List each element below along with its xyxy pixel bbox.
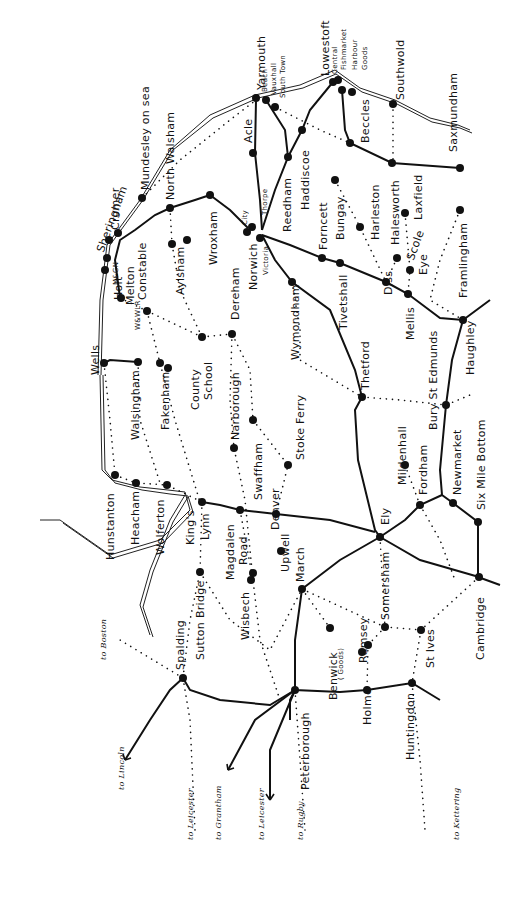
station-label-hunstanton: Hunstanton (105, 493, 116, 560)
station-label-bury-st-edmunds: Bury St Edmunds (428, 330, 439, 430)
station-label-eye: Eye (418, 254, 429, 275)
station-label-thorpe: Thorpe (262, 189, 269, 215)
station-label-huntingdon: Huntingdon (405, 693, 416, 760)
station-label-dereham: Dereham (230, 267, 241, 320)
destination-label: to Leicester (258, 788, 266, 840)
station-label-march: March (295, 547, 306, 582)
station-label-magdalen-road: Magdalen (225, 524, 236, 580)
station-label-somersham: Somersham (380, 551, 391, 620)
station-label-bungay: Bungay (335, 196, 346, 240)
destination-label: to Kettering (453, 788, 461, 841)
station-label-county-school: County (190, 369, 201, 410)
station-label-upwell: Upwell (280, 533, 291, 572)
station-label-aylsham: Aylsham (175, 246, 186, 295)
station-label-beccles: Beccles (360, 99, 371, 143)
station-label-st-ives: St Ives (425, 629, 436, 668)
station-label-framlingham: Framlingham (458, 223, 469, 298)
station-label-wolferton: Wolferton (155, 499, 166, 555)
station-label-goods: Goods (362, 46, 369, 70)
station-label-spalding: Spalding (175, 620, 186, 670)
station-label-cambridge: Cambridge (475, 597, 486, 660)
station-label-fordham: Fordham (418, 444, 429, 495)
destination-label: to Leicester (187, 788, 195, 840)
station-label-forncett: Forncett (318, 202, 329, 250)
station-label-mundesley: Mundesley on sea (140, 86, 151, 190)
station-label-kings-lynn: King's (185, 510, 196, 545)
station-label-norwich: Norwich (248, 243, 259, 290)
station-label-narborough: Narborough (230, 372, 241, 440)
station-label-newmarket: Newmarket (452, 429, 463, 495)
station-label-north-walsham: North Walsham (165, 112, 176, 200)
station-label-lowestoft: Lowestoft (320, 20, 331, 76)
station-label-walsingham: Walsingham (130, 370, 141, 440)
station-label-holme: Holme (362, 688, 373, 725)
station-label-reedham: Reedham (282, 178, 293, 232)
station-label-southwold: Southwold (395, 40, 406, 100)
station-label-county-school-2: School (203, 362, 214, 400)
destination-label: to Rugby (297, 801, 305, 840)
destination-label: to Boston (100, 619, 108, 660)
station-label-diss: Diss (383, 271, 394, 295)
station-label-saxmundham: Saxmundham (448, 73, 459, 152)
station-label-wymondham: Wymondham (290, 284, 301, 360)
station-label-thetford: Thetford (360, 341, 371, 390)
line-annotation: W&WLR (135, 300, 142, 330)
station-label-mildenhall: Mildenhall (397, 426, 408, 485)
station-label-harleston: Harleston (370, 184, 381, 240)
station-label-fishmarket: Fishmarket (341, 29, 348, 70)
station-label-ramsey: Ramsey (358, 617, 369, 663)
station-label-haddiscoe: Haddiscoe (300, 150, 311, 210)
station-label-wells: Wells (90, 345, 101, 375)
station-label-wisbech: Wisbech (240, 592, 251, 640)
station-label-stoke-ferry: Stoke Ferry (295, 395, 306, 460)
station-label-south-town: South Town (280, 55, 287, 98)
destination-arrows (123, 754, 274, 800)
station-label-wroxham: Wroxham (208, 211, 219, 265)
station-label-heacham: Heacham (130, 491, 141, 545)
station-label-kings-lynn-2: Lynn (200, 513, 211, 540)
station-label-mellis: Mellis (405, 307, 416, 340)
station-label-city: City (242, 210, 249, 225)
destination-label: to Lincoln (118, 746, 126, 790)
station-label-magdalen-road-2: Road (238, 536, 249, 565)
station-label-benwick-goods: ( Goods) (338, 648, 345, 680)
station-label-tivetshall: Tivetshall (338, 274, 349, 330)
station-label-fakenham: Fakenham (160, 371, 171, 430)
station-label-beach: Beach (262, 69, 269, 92)
station-label-six-mile-bottom: Six Mile Bottom (476, 419, 487, 510)
station-label-sutton-bridge: Sutton Bridge (195, 580, 206, 660)
station-label-central: Central (332, 46, 339, 74)
station-label-haughley: Haughley (465, 320, 476, 375)
station-label-laxfield: Laxfield (413, 174, 424, 220)
station-label-swaffham: Swaffham (253, 443, 264, 500)
line-annotation: M&GN (113, 262, 120, 285)
station-label-melton-constable: Melton (125, 266, 136, 305)
destination-label: to Grantham (215, 785, 223, 840)
station-label-melton-constable-2: Constable (137, 242, 148, 300)
station-label-acle: Acle (243, 119, 254, 143)
station-label-denver: Denver (270, 488, 281, 530)
station-label-ely: Ely (380, 508, 391, 525)
station-label-halesworth: Halesworth (390, 180, 401, 245)
station-label-harbour: Harbour (352, 39, 359, 70)
station-dots (100, 76, 483, 694)
station-label-victoria: Victoria (263, 246, 270, 275)
station-label-peterborough: Peterborough (300, 712, 311, 790)
station-label-vauxhall: Vauxhall (271, 63, 278, 95)
